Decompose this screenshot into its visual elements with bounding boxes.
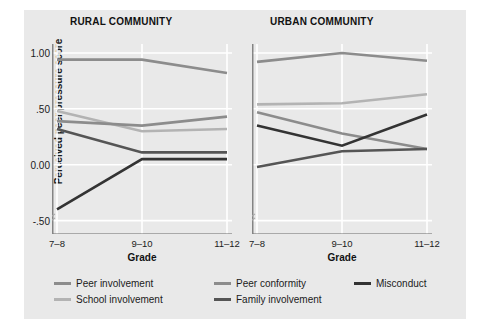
plot-svg — [52, 44, 232, 234]
legend-swatch — [214, 282, 231, 285]
y-tick-label: .50 — [36, 103, 50, 114]
legend-label: Family involvement — [236, 294, 322, 305]
y-tick-label: 0.00 — [31, 159, 50, 170]
legend-item[interactable]: Family involvement — [214, 294, 322, 305]
x-axis-ticks-urban: 7–89–1011–12 — [252, 238, 432, 252]
plot-area-rural — [52, 44, 232, 234]
chart-legend: Peer involvementPeer conformityMisconduc… — [24, 276, 466, 310]
legend-swatch — [214, 298, 231, 301]
panels-container: RURAL COMMUNITY 1.00.500.00-.50 7–89–101… — [24, 10, 466, 272]
legend-item[interactable]: Peer conformity — [214, 278, 306, 289]
legend-item[interactable]: Misconduct — [354, 278, 427, 289]
x-tick-label: 11–12 — [414, 238, 440, 249]
legend-swatch — [54, 298, 71, 301]
x-tick-label: 9–10 — [131, 238, 152, 249]
x-tick-label: 11–12 — [214, 238, 240, 249]
panel-rural: RURAL COMMUNITY 1.00.500.00-.50 7–89–101… — [52, 10, 232, 272]
legend-label: School involvement — [76, 294, 163, 305]
panel-urban: URBAN COMMUNITY 7–89–1011–12 Grade — [252, 10, 432, 272]
plot-area-urban — [252, 44, 432, 234]
legend-item[interactable]: Peer involvement — [54, 278, 153, 289]
plot-svg — [252, 44, 432, 234]
legend-label: Peer conformity — [236, 278, 306, 289]
x-axis-label-urban: Grade — [252, 252, 432, 263]
x-tick-label: 9–10 — [331, 238, 352, 249]
figure: Perceived peer pressure score RURAL COMM… — [24, 10, 466, 319]
y-tick-label: 1.00 — [31, 47, 50, 58]
legend-swatch — [354, 282, 371, 285]
x-axis-label-rural: Grade — [52, 252, 232, 263]
legend-label: Misconduct — [376, 278, 427, 289]
legend-swatch — [54, 282, 71, 285]
y-tick-label: -.50 — [33, 215, 50, 226]
panel-title-rural: RURAL COMMUNITY — [70, 16, 172, 27]
legend-item[interactable]: School involvement — [54, 294, 163, 305]
x-axis-ticks-rural: 7–89–1011–12 — [52, 238, 232, 252]
x-tick-label: 7–8 — [249, 238, 265, 249]
x-tick-label: 7–8 — [49, 238, 65, 249]
legend-label: Peer involvement — [76, 278, 153, 289]
y-axis-ticks: 1.00.500.00-.50 — [18, 44, 50, 234]
panel-title-urban: URBAN COMMUNITY — [270, 16, 374, 27]
